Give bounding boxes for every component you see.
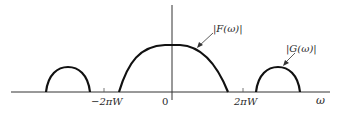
arrow-G-head — [283, 60, 289, 66]
curve-G — [256, 67, 300, 92]
tick-label-neg-2piW: −2πW — [91, 96, 123, 107]
tick-label-pos-2piW: 2πW — [233, 96, 258, 107]
curve-G-mirror — [46, 67, 90, 92]
origin-label: 0 — [162, 96, 168, 107]
label-G: |G(ω)| — [286, 43, 317, 55]
spectrum-diagram: |F(ω)| |G(ω)| −2πW 0 2πW ω — [0, 0, 339, 113]
curve-F — [119, 45, 228, 92]
label-F: |F(ω)| — [213, 23, 243, 35]
axis-label-omega: ω — [316, 94, 325, 107]
